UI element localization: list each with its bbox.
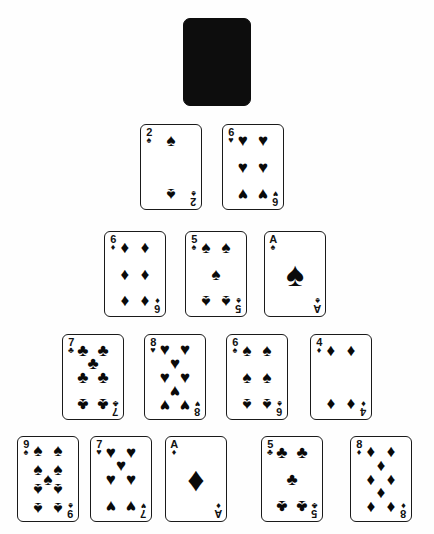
pip-diamond-icon — [347, 396, 356, 413]
card-suit-spade-icon: ♠ — [65, 501, 76, 510]
card-index-br: 7♣ — [110, 399, 121, 417]
pip-heart-icon — [180, 397, 190, 414]
pip-heart-icon — [258, 186, 268, 203]
pip-heart-icon — [258, 131, 268, 148]
card-index-br: 6♦ — [152, 296, 163, 314]
card-suit-club-icon: ♣ — [110, 399, 121, 408]
playing-card[interactable]: 8♥8♥ — [144, 334, 206, 420]
playing-card[interactable]: 5♠5♠ — [185, 231, 247, 317]
pip-diamond-icon — [367, 471, 376, 488]
playing-card[interactable]: A♦A♦ — [165, 436, 227, 522]
pip-spade-icon — [286, 257, 304, 291]
pip-diamond-icon — [121, 266, 130, 283]
card-index-br: 4♦ — [358, 399, 369, 417]
card-suit-heart-icon: ♥ — [138, 501, 149, 510]
pip-spade-icon — [33, 460, 42, 477]
pip-diamond-icon — [121, 238, 130, 255]
pip-diamond-icon — [387, 442, 396, 459]
pip-diamond-icon — [327, 396, 336, 413]
pip-club-icon — [77, 369, 88, 386]
pip-heart-icon — [126, 498, 136, 515]
pip-heart-icon — [238, 159, 248, 176]
pip-club-icon — [286, 471, 297, 488]
pip-club-icon — [276, 498, 287, 515]
playing-card[interactable]: 7♥7♥ — [90, 436, 152, 522]
pip-club-icon — [98, 369, 109, 386]
pip-diamond-icon — [377, 456, 386, 473]
playing-card[interactable]: A♠A♠ — [264, 231, 326, 317]
pip-spade-icon — [263, 369, 272, 386]
card-suit-diamond-icon: ♦ — [398, 501, 409, 510]
pip-spade-icon — [222, 238, 231, 255]
playing-card[interactable]: 6♦6♦ — [104, 231, 166, 317]
pip-spade-icon — [201, 293, 210, 310]
pip-diamond-icon — [121, 293, 130, 310]
card-pip-field — [198, 237, 234, 311]
pip-diamond-icon — [141, 293, 150, 310]
pip-heart-icon — [106, 443, 116, 460]
playing-card[interactable]: 8♦8♦ — [350, 436, 412, 522]
pip-spade-icon — [242, 369, 251, 386]
playing-card[interactable]: 5♣5♣ — [261, 436, 323, 522]
card-board: 2♠2♠6♥6♥6♦6♦5♠5♠A♠A♠7♣7♣8♥8♥6♠6♠4♦4♦9♠9♠… — [0, 0, 434, 534]
card-suit-heart-icon: ♥ — [192, 399, 203, 408]
card-pip-field — [323, 340, 359, 414]
playing-card[interactable]: 9♠9♠ — [17, 436, 79, 522]
playing-card[interactable]: 4♦4♦ — [310, 334, 372, 420]
pip-club-icon — [77, 396, 88, 413]
playing-card[interactable]: 6♥6♥ — [222, 124, 284, 210]
card-index-br: A♠ — [312, 296, 323, 314]
pip-spade-icon — [33, 442, 42, 459]
card-index-br: 8♦ — [398, 501, 409, 519]
pip-heart-icon — [258, 159, 268, 176]
pip-diamond-icon — [377, 485, 386, 502]
pip-spade-icon — [54, 460, 63, 477]
card-suit-club-icon: ♣ — [309, 501, 320, 510]
card-pip-field — [117, 237, 153, 311]
pip-diamond-icon — [387, 499, 396, 516]
card-face-down[interactable] — [183, 18, 251, 106]
pip-spade-icon — [211, 266, 220, 283]
card-index-br: 8♥ — [192, 399, 203, 417]
pip-heart-icon — [106, 498, 116, 515]
card-pip-field — [363, 442, 399, 516]
pip-spade-icon — [263, 341, 272, 358]
card-index-br: 9♠ — [65, 501, 76, 519]
pip-diamond-icon — [141, 266, 150, 283]
card-index-br: 2♠ — [188, 189, 199, 207]
pip-club-icon — [276, 443, 287, 460]
card-pip-field — [178, 442, 214, 516]
pip-diamond-icon — [367, 499, 376, 516]
card-index-br: 6♥ — [270, 189, 281, 207]
card-suit-spade-icon: ♠ — [188, 189, 199, 198]
pip-heart-icon — [160, 340, 170, 357]
card-suit-spade-icon: ♠ — [233, 296, 244, 305]
pip-heart-icon — [126, 443, 136, 460]
card-pip-field — [277, 237, 313, 311]
playing-card[interactable]: 2♠2♠ — [140, 124, 202, 210]
pip-club-icon — [98, 341, 109, 358]
pip-spade-icon — [43, 471, 52, 488]
pip-diamond-icon — [187, 462, 204, 496]
pip-heart-icon — [116, 456, 126, 473]
pip-spade-icon — [33, 481, 42, 498]
card-pip-field — [103, 442, 139, 516]
pip-heart-icon — [180, 340, 190, 357]
pip-diamond-icon — [347, 341, 356, 358]
pip-heart-icon — [170, 354, 180, 371]
pip-heart-icon — [180, 369, 190, 386]
card-index-br: A♦ — [213, 501, 224, 519]
pip-spade-icon — [166, 186, 175, 203]
card-pip-field — [274, 442, 310, 516]
pip-heart-icon — [238, 131, 248, 148]
card-pip-field — [235, 130, 271, 204]
pip-club-icon — [98, 396, 109, 413]
playing-card[interactable]: 7♣7♣ — [62, 334, 124, 420]
pip-spade-icon — [263, 396, 272, 413]
card-pip-field — [30, 442, 66, 516]
pip-diamond-icon — [367, 442, 376, 459]
card-pip-field — [153, 130, 189, 204]
playing-card[interactable]: 6♠6♠ — [226, 334, 288, 420]
pip-spade-icon — [242, 396, 251, 413]
pip-club-icon — [297, 498, 308, 515]
